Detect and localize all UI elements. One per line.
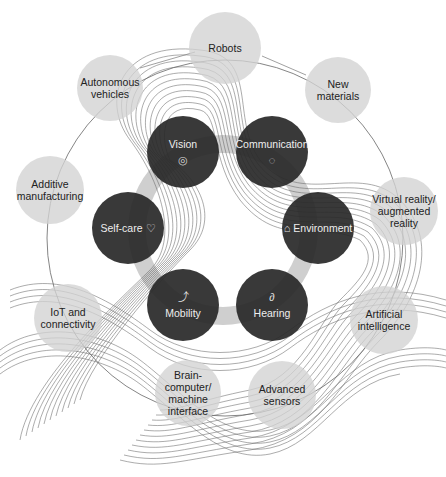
need-label: Self-care [100, 222, 142, 234]
speech-bubble-icon: ◌ [269, 154, 276, 166]
technology-label-line: Autonomous [81, 76, 140, 88]
technology-label-line: Additive [31, 178, 68, 190]
need-node-mobility: ⤴Mobility [147, 269, 219, 341]
technology-label-line: IoT and [50, 306, 85, 318]
technology-label-line: New materials [305, 78, 371, 102]
technology-label-line: Robots [208, 42, 241, 54]
eye-icon: ◎ [178, 154, 188, 166]
technology-node-vr-ar: Virtual reality/augmentedreality [370, 177, 438, 245]
technology-node-ai: Artificialintelligence [350, 286, 418, 354]
technology-label-line: interface [168, 405, 208, 417]
heart-icon: ♡ [146, 222, 156, 234]
technology-node-additive-manufacturing: Additivemanufacturing [16, 156, 84, 224]
technology-label-line: connectivity [41, 318, 96, 330]
stairs-arrow-icon: ⤴ [178, 291, 189, 303]
technology-label-line: vehicles [91, 88, 129, 100]
technology-label-line: Artificial [366, 308, 403, 320]
technology-label-line: manufacturing [17, 190, 84, 202]
need-label: Communication [236, 138, 309, 150]
need-label: Hearing [254, 307, 291, 319]
need-node-selfcare: Self-care♡ [92, 192, 164, 264]
technology-label-line: computer/ [165, 381, 212, 393]
technology-node-robots: Robots [189, 12, 261, 84]
need-node-vision: Vision◎ [147, 116, 219, 188]
technology-node-new-materials: New materials [305, 57, 371, 123]
need-label: Environment [293, 222, 352, 234]
technology-label-line: Advanced [259, 383, 306, 395]
need-label: Mobility [165, 307, 201, 319]
technology-label-line: Virtual reality/ [372, 193, 435, 205]
ear-icon: ∂ [269, 291, 274, 303]
technology-label-line: Brain- [174, 369, 202, 381]
technology-label-line: reality [390, 217, 418, 229]
technology-label-line: augmented [378, 205, 431, 217]
need-label: Vision [169, 138, 197, 150]
contour-lines [0, 49, 446, 464]
technology-node-iot: IoT andconnectivity [34, 284, 102, 352]
technology-node-autonomous-vehicles: Autonomousvehicles [77, 55, 143, 121]
technology-label-line: intelligence [358, 320, 411, 332]
technology-label-line: sensors [264, 395, 301, 407]
technology-node-advanced-sensors: Advancedsensors [248, 361, 316, 429]
need-node-hearing: ∂Hearing [236, 269, 308, 341]
need-node-communication: Communication◌ [236, 116, 308, 188]
home-icon: ⌂ [284, 222, 291, 234]
need-node-environment: ⌂Environment [282, 192, 354, 264]
technology-node-bci: Brain-computer/machineinterface [155, 360, 221, 426]
technology-label-line: machine [168, 393, 208, 405]
